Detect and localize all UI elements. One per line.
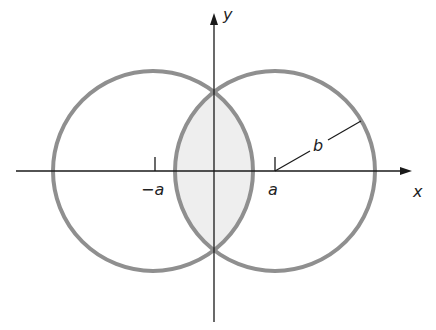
radius-line-1 [275,151,310,171]
radius-line-2 [328,121,361,140]
x-axis-arrow-icon [400,167,412,175]
y-axis-arrow-icon [210,13,218,25]
diagram-canvas: y x −a a b [0,0,436,330]
y-axis-label: y [223,7,232,23]
b-label: b [313,138,323,154]
x-axis-label: x [413,184,422,200]
a-label: a [268,182,278,198]
diagram-svg [0,0,436,330]
minus-a-label: −a [141,182,164,198]
